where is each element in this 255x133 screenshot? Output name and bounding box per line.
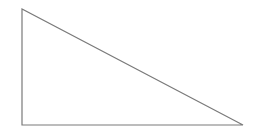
triangle-diagram [0, 0, 255, 133]
right-triangle [22, 9, 243, 125]
